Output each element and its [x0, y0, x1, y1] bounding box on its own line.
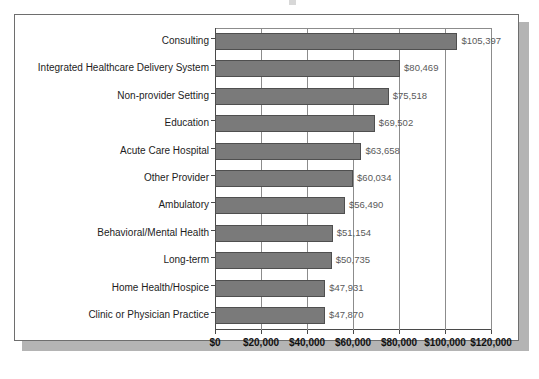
bar-rows: Consulting$105,397Integrated Healthcare …: [215, 28, 491, 330]
bar-value-label: $60,034: [357, 172, 391, 183]
chart-frame: Consulting$105,397Integrated Healthcare …: [14, 14, 519, 341]
bar: [215, 143, 361, 160]
category-label: Integrated Healthcare Delivery System: [38, 62, 209, 73]
plot-area: Consulting$105,397Integrated Healthcare …: [215, 28, 491, 330]
x-tick-label: $40,000: [289, 337, 325, 348]
x-tick-mark: [491, 330, 492, 334]
category-label: Clinic or Physician Practice: [88, 309, 209, 320]
bar: [215, 115, 375, 132]
x-tick-label: $20,000: [243, 337, 279, 348]
bar-value-label: $47,931: [329, 282, 363, 293]
category-label: Ambulatory: [158, 199, 209, 210]
bar: [215, 170, 353, 187]
bar: [215, 60, 400, 77]
x-tick-label: $80,000: [381, 337, 417, 348]
bar: [215, 280, 325, 297]
x-tick-mark: [215, 330, 216, 334]
bar-row: Education$69,502: [215, 110, 491, 137]
bar-value-label: $69,502: [379, 117, 413, 128]
chart-screenshot: Consulting$105,397Integrated Healthcare …: [0, 0, 539, 379]
bar-value-label: $56,490: [349, 199, 383, 210]
category-label: Home Health/Hospice: [112, 282, 209, 293]
bar-row: Home Health/Hospice$47,931: [215, 275, 491, 302]
x-tick-label: $0: [209, 337, 220, 348]
category-label: Other Provider: [144, 172, 209, 183]
bar-row: Other Provider$60,034: [215, 165, 491, 192]
bar-row: Acute Care Hospital$63,658: [215, 138, 491, 165]
category-label: Long-term: [163, 254, 209, 265]
bar-row: Consulting$105,397: [215, 28, 491, 55]
bar-value-label: $63,658: [365, 145, 399, 156]
bar: [215, 197, 345, 214]
bar-value-label: $47,870: [329, 309, 363, 320]
category-label: Behavioral/Mental Health: [97, 227, 209, 238]
category-label: Education: [165, 117, 209, 128]
category-label: Consulting: [162, 35, 209, 46]
bar-value-label: $50,735: [336, 254, 370, 265]
bar: [215, 88, 389, 105]
bar-row: Integrated Healthcare Delivery System$80…: [215, 55, 491, 82]
bar: [215, 252, 332, 269]
bar-row: Non-provider Setting$75,518: [215, 83, 491, 110]
x-tick-label: $120,000: [470, 337, 512, 348]
bar: [215, 307, 325, 324]
bar-value-label: $51,154: [337, 227, 371, 238]
x-tick-mark: [445, 330, 446, 334]
scan-artifact: [289, 0, 296, 5]
bar-row: Clinic or Physician Practice$47,870: [215, 303, 491, 330]
bar-value-label: $80,469: [404, 62, 438, 73]
x-tick-mark: [307, 330, 308, 334]
x-tick-mark: [353, 330, 354, 334]
bar: [215, 225, 333, 242]
x-tick-label: $100,000: [424, 337, 466, 348]
bar-value-label: $105,397: [461, 35, 501, 46]
x-tick-mark: [399, 330, 400, 334]
x-tick-label: $60,000: [335, 337, 371, 348]
gridline-120000: [491, 28, 492, 330]
bar: [215, 33, 457, 50]
bar-row: Ambulatory$56,490: [215, 193, 491, 220]
bar-row: Long-term$50,735: [215, 248, 491, 275]
x-tick-mark: [261, 330, 262, 334]
bar-row: Behavioral/Mental Health$51,154: [215, 220, 491, 247]
category-label: Non-provider Setting: [117, 90, 209, 101]
bar-value-label: $75,518: [393, 90, 427, 101]
category-label: Acute Care Hospital: [120, 145, 209, 156]
